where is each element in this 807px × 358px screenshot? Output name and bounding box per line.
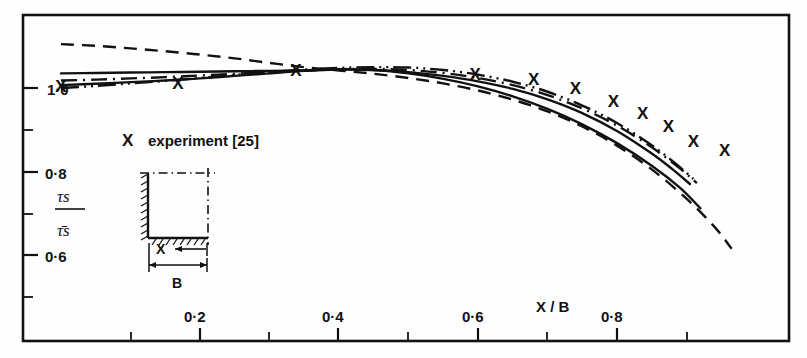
legend-marker-x: X — [122, 131, 134, 150]
experiment-marker: X — [172, 74, 184, 93]
y-axis-title: τs τ̄s — [55, 187, 85, 240]
experiment-marker: X — [663, 117, 675, 136]
y-axis-title-numerator: τs — [57, 187, 70, 206]
figure-container: 1·0 0·8 0·6 0·2 0·4 0·6 0·8 X / B τs τ̄s… — [0, 0, 807, 358]
experiment-marker: X — [55, 77, 67, 96]
plot-frame — [23, 15, 789, 341]
series-prediction-solid-upper — [61, 70, 690, 184]
experiment-marker: X — [470, 65, 482, 84]
y-axis-ticks — [23, 88, 38, 255]
experiment-marker: X — [608, 92, 620, 111]
x-axis-minor-ticks — [131, 332, 687, 341]
y-axis-minor-ticks — [23, 130, 33, 297]
chart-canvas: 1·0 0·8 0·6 0·2 0·4 0·6 0·8 X / B τs τ̄s… — [0, 0, 807, 358]
experiment-marker: X — [637, 104, 649, 123]
y-axis-title-denominator: τ̄s — [57, 221, 70, 240]
x-tick-label-0-2: 0·2 — [184, 308, 206, 325]
legend-label: experiment [25] — [148, 132, 259, 149]
series-prediction-dashdotdot — [61, 67, 693, 179]
x-axis-title: X / B — [536, 298, 570, 315]
inset-x-label: X — [156, 241, 166, 257]
experiment-marker: X — [290, 61, 302, 80]
experiment-marker: X — [570, 79, 582, 98]
x-tick-label-0-4: 0·4 — [322, 308, 344, 325]
y-tick-label-0-8: 0·8 — [45, 165, 67, 182]
x-tick-label-0-6: 0·6 — [462, 308, 484, 325]
x-tick-label-0-8: 0·8 — [601, 308, 623, 325]
experiment-marker: X — [528, 70, 540, 89]
inset-duct-diagram: X B — [140, 168, 215, 291]
y-tick-label-0-6: 0·6 — [45, 248, 67, 265]
experiment-marker: X — [719, 141, 731, 160]
legend: X experiment [25] — [122, 131, 259, 150]
series-prediction-dashdot — [61, 69, 697, 183]
experiment-marker: X — [688, 132, 700, 151]
inset-b-label: B — [172, 275, 182, 291]
